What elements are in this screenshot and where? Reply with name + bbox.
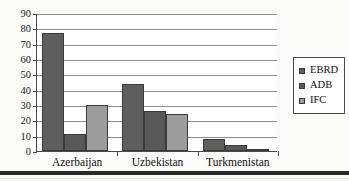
- x-axis-category-label: Uzbekistan: [132, 157, 184, 169]
- y-axis-tick-label: 90: [21, 9, 32, 20]
- y-axis-tick: [33, 29, 37, 30]
- y-axis-tick: [33, 121, 37, 122]
- plot-area: 0102030405060708090 AzerbaijanUzbekistan…: [36, 14, 277, 152]
- legend-item-ebrd: EBRD: [299, 63, 340, 78]
- bar-chart-figure: 0102030405060708090 AzerbaijanUzbekistan…: [0, 0, 349, 182]
- bar-ebrd-turkmenistan: [203, 139, 225, 151]
- legend-label-adb: ADB: [310, 80, 332, 91]
- legend-swatch-icon-ebrd: [299, 68, 305, 74]
- legend-swatch-icon-ifc: [299, 98, 305, 104]
- bar-ifc-turkmenistan: [247, 149, 269, 151]
- legend-item-ifc: IFC: [299, 93, 340, 108]
- legend-swatch-icon-adb: [299, 83, 305, 89]
- bar-adb-azerbaijan: [64, 134, 86, 151]
- y-axis-tick-label: 80: [21, 24, 32, 35]
- y-axis-tick: [33, 152, 37, 153]
- y-axis-tick-label: 10: [21, 131, 32, 142]
- x-axis-tick: [278, 151, 279, 156]
- y-axis-tick-label: 40: [21, 85, 32, 96]
- y-axis-tick: [33, 45, 37, 46]
- y-axis-tick-label: 70: [21, 39, 32, 50]
- x-axis-category-label: Azerbaijan: [52, 157, 102, 169]
- y-axis-tick-label: 30: [21, 101, 32, 112]
- x-axis-tick: [198, 151, 199, 156]
- y-axis-tick-label: 60: [21, 55, 32, 66]
- x-axis-category-label: Turkmenistan: [206, 157, 269, 169]
- y-axis-tick-label: 50: [21, 70, 32, 81]
- bar-adb-uzbekistan: [144, 111, 166, 151]
- y-axis-tick-label: 20: [21, 116, 32, 127]
- bar-group: [199, 14, 279, 151]
- y-axis-tick: [33, 14, 37, 15]
- legend-label-ifc: IFC: [310, 95, 326, 106]
- bar-group: [38, 14, 118, 151]
- y-axis-tick: [33, 137, 37, 138]
- bar-ifc-azerbaijan: [86, 105, 108, 151]
- bar-ifc-uzbekistan: [166, 114, 188, 151]
- y-axis-tick: [33, 60, 37, 61]
- legend-label-ebrd: EBRD: [310, 65, 338, 76]
- y-axis-tick: [33, 106, 37, 107]
- x-axis-tick: [117, 151, 118, 156]
- y-axis-tick: [33, 91, 37, 92]
- bar-group: [118, 14, 198, 151]
- page-bottom-rule: [0, 171, 349, 175]
- legend-item-adb: ADB: [299, 78, 340, 93]
- y-axis-tick: [33, 75, 37, 76]
- page-bottom-rule-secondary: [0, 178, 349, 179]
- chart-legend: EBRD ADB IFC: [293, 57, 345, 114]
- y-axis-tick-label: 0: [26, 147, 31, 158]
- bar-ebrd-azerbaijan: [42, 33, 64, 151]
- bar-ebrd-uzbekistan: [122, 84, 144, 151]
- bars-layer: [38, 14, 277, 151]
- bar-adb-turkmenistan: [225, 145, 247, 151]
